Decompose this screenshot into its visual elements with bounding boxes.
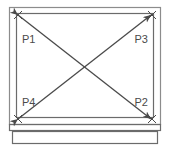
corner-label-p2: P2 [135,96,148,108]
frame-diagonal-diagram: P1 P3 P4 P2 [0,0,173,147]
corner-label-p1: P1 [22,33,35,45]
corner-label-p3: P3 [135,33,148,45]
diagram-canvas: P1 P3 P4 P2 [0,0,173,147]
corner-label-p4: P4 [22,96,35,108]
